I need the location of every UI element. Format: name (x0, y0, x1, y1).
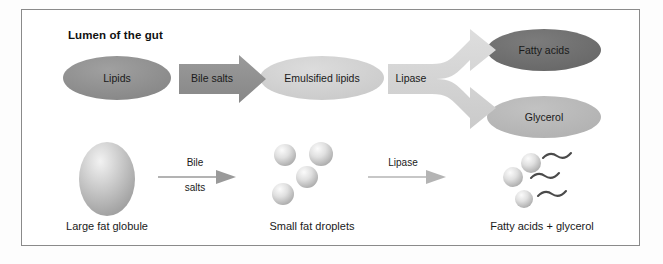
arrow-label-salts: salts (167, 182, 223, 193)
caption-fatty-acids-glycerol: Fatty acids + glycerol (452, 220, 632, 232)
node-label-glycerol: Glycerol (489, 111, 599, 123)
caption-small-fat-droplets: Small fat droplets (238, 220, 386, 232)
arrow-label-bile: Bile (167, 157, 223, 168)
arrow-label-lipase: Lipase (388, 72, 434, 84)
node-label-emulsified-lipids: Emulsified lipids (262, 72, 382, 84)
diagram-root: Lumen of the gut (0, 0, 663, 264)
page-title: Lumen of the gut (68, 29, 163, 41)
arrow-label-lipase-bottom: Lipase (375, 157, 431, 168)
node-label-fatty-acids: Fatty acids (489, 44, 599, 56)
caption-large-fat-globule: Large fat globule (42, 220, 172, 232)
arrow-label-bile-salts: Bile salts (184, 72, 240, 84)
node-label-lipids: Lipids (67, 72, 167, 84)
